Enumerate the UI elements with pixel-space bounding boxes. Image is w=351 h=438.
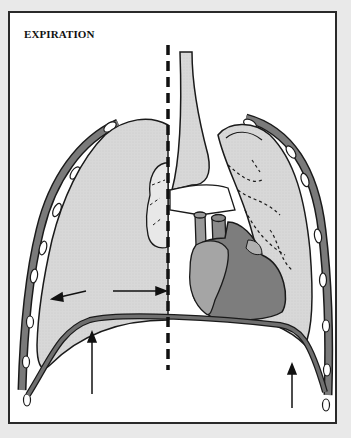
trachea bbox=[172, 52, 209, 190]
diaphragm-up-arrow-left bbox=[88, 332, 96, 394]
right-lung bbox=[37, 119, 168, 368]
diaphragm-up-arrow-right bbox=[288, 364, 296, 408]
expiration-diagram bbox=[0, 0, 351, 438]
